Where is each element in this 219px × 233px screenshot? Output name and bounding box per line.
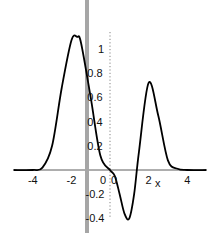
x-tick-label: 4	[184, 174, 190, 186]
chart-canvas: -4-2024-0.4-0.200.20.40.60.81 x	[0, 0, 219, 233]
y-tick-label: 0.8	[87, 67, 102, 79]
y-tick-label: 0.6	[87, 91, 102, 103]
y-tick-label: 0	[100, 174, 106, 186]
y-tick-label: -0.4	[86, 212, 105, 224]
x-axis-label: x	[155, 177, 161, 189]
y-tick-label: 0.4	[87, 116, 102, 128]
axes	[16, 32, 205, 218]
x-tick-label: 2	[146, 174, 152, 186]
x-tick-label: -4	[28, 174, 38, 186]
y-tick-label: -0.2	[86, 188, 105, 200]
tick-labels: -4-2024-0.4-0.200.20.40.60.81	[28, 43, 190, 224]
y-tick-label: 1	[98, 43, 104, 55]
x-tick-label: -2	[67, 174, 77, 186]
x-tick-label: 0	[111, 174, 117, 186]
y-tick-label: 0.2	[87, 140, 102, 152]
